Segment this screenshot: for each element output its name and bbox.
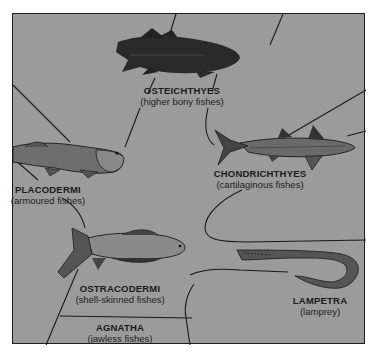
group-common-name: (shell-skinned fishes) (75, 294, 164, 305)
label-chondrichthyes: CHONDRICHTHYES (cartilaginous fishes) (214, 168, 307, 190)
label-agnatha: AGNATHA (jawless fishes) (88, 322, 153, 344)
chondrichthyes-fish-icon (215, 125, 355, 170)
group-common-name: (lamprey) (293, 306, 347, 317)
group-name: AGNATHA (88, 322, 153, 333)
group-name: LAMPETRA (293, 295, 347, 306)
label-lampetra: LAMPETRA (lamprey) (293, 295, 347, 317)
group-common-name: (armoured fishes) (11, 195, 85, 206)
group-name: CHONDRICHTHYES (214, 168, 307, 179)
group-common-name: (jawless fishes) (88, 333, 153, 344)
group-name: OSTEICHTHYES (140, 85, 223, 96)
group-common-name: (cartilaginous fishes) (214, 179, 307, 190)
group-name: PLACODERMI (11, 184, 85, 195)
group-name: OSTRACODERMI (75, 283, 164, 294)
lampetra-fish-icon (237, 250, 358, 288)
label-ostracodermi: OSTRACODERMI (shell-skinned fishes) (75, 283, 164, 305)
group-common-name: (higher bony fishes) (140, 96, 223, 107)
label-osteichthyes: OSTEICHTHYES (higher bony fishes) (140, 85, 223, 107)
label-placodermi: PLACODERMI (armoured fishes) (11, 184, 85, 206)
osteichthyes-fish-icon (116, 28, 240, 78)
